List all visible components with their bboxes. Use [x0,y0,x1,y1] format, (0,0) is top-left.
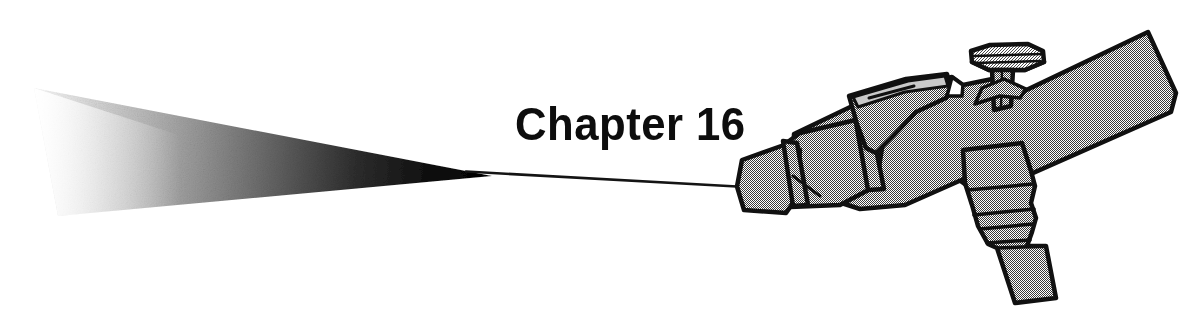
page-title: Chapter 16 [515,97,746,151]
spray-gun-illustration [0,0,1203,320]
chapter-opener-page: Chapter 16 [0,0,1203,320]
